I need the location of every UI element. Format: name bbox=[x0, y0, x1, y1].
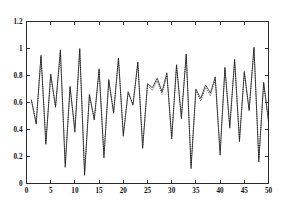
x-tick-label-0: 0 bbox=[25, 187, 29, 195]
y-tick-label-5: 1 bbox=[19, 45, 23, 53]
x-tick-label-3: 15 bbox=[96, 187, 104, 195]
x-tick-label-7: 35 bbox=[192, 187, 200, 195]
x-tick-label-5: 25 bbox=[144, 187, 152, 195]
y-tick-label-2: 0.4 bbox=[14, 126, 23, 134]
x-tick-label-6: 30 bbox=[168, 187, 176, 195]
x-tick-label-1: 5 bbox=[49, 187, 53, 195]
y-tick-label-6: 1.2 bbox=[14, 18, 23, 26]
x-tick-label-8: 40 bbox=[217, 187, 225, 195]
line-chart: 00.20.40.60.811.2 05101520253035404550 bbox=[0, 0, 282, 216]
y-tick-label-1: 0.2 bbox=[14, 153, 23, 161]
y-tick-label-4: 0.8 bbox=[14, 72, 23, 80]
y-tick-label-0: 0 bbox=[19, 180, 23, 188]
x-tick-label-2: 10 bbox=[71, 187, 79, 195]
x-tick-label-10: 50 bbox=[265, 187, 273, 195]
x-tick-label-9: 45 bbox=[241, 187, 249, 195]
x-tick-label-4: 20 bbox=[120, 187, 128, 195]
y-tick-label-3: 0.6 bbox=[14, 99, 23, 107]
chart-figure: 00.20.40.60.811.2 05101520253035404550 bbox=[0, 0, 282, 216]
